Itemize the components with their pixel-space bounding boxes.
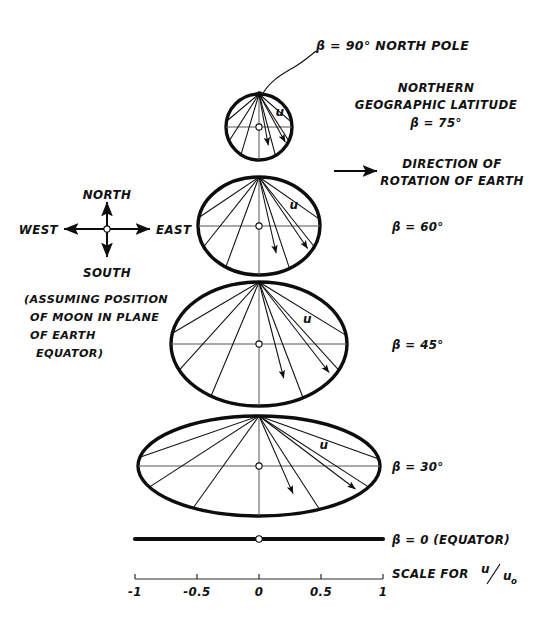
velocity-ray-beta75-2 xyxy=(241,94,259,155)
pole-label: β = 90° NORTH POLE xyxy=(315,38,469,53)
velocity-symbol-beta60: u xyxy=(290,198,299,212)
north-pole-dot xyxy=(256,91,262,97)
scale-tick-label-3: 0.5 xyxy=(310,585,332,599)
latitude-shape-beta75: u xyxy=(226,94,292,160)
velocity-ray-beta75-1 xyxy=(229,94,259,141)
latitude-label-beta75: β = 75° xyxy=(409,116,462,130)
compass-rose xyxy=(64,202,150,257)
latitude-label-beta60: β = 60° xyxy=(391,220,444,234)
equator-label: β = 0 (EQUATOR) xyxy=(391,533,510,547)
latitude-shape-beta60: u xyxy=(198,177,320,275)
latitude-velocity-diagram: uuuu -1-0.500.51 β = 90° NORTH POLE NORT… xyxy=(0,0,553,635)
latitude-label-beta30: β = 30° xyxy=(391,460,444,474)
latitude-label-beta45: β = 45° xyxy=(391,338,444,352)
scale-ratio-numerator: u xyxy=(481,562,490,576)
assumption-line4: EQUATOR) xyxy=(36,347,103,360)
velocity-ray-beta30-1 xyxy=(149,416,259,487)
compass-east-label: EAST xyxy=(156,223,192,237)
compass-west-label: WEST xyxy=(19,223,59,237)
northern-label-line2: GEOGRAPHIC LATITUDE xyxy=(355,98,517,112)
latitude-center-dot-beta75 xyxy=(256,124,262,130)
latitude-ellipse-group: uuuu xyxy=(138,94,380,516)
latitude-center-dot-beta60 xyxy=(256,223,262,229)
velocity-vector-beta60-0 xyxy=(259,177,308,249)
equator-center-dot xyxy=(256,536,262,542)
velocity-symbol-beta75: u xyxy=(276,105,285,119)
latitude-shape-beta45: u xyxy=(171,282,347,406)
scale-label: SCALE FOR xyxy=(392,567,469,581)
scale-tick-label-0: -1 xyxy=(128,585,142,599)
scale-tick-label-4: 1 xyxy=(379,585,388,599)
compass-hub xyxy=(104,226,110,232)
velocity-ray-beta30-3 xyxy=(259,416,320,509)
velocity-ray-beta45-4 xyxy=(259,282,339,370)
scale-axis: -1-0.500.51 xyxy=(128,574,387,599)
assumption-line2: OF MOON IN PLANE xyxy=(30,311,159,324)
velocity-ray-beta30-4 xyxy=(259,416,369,487)
northern-label-line1: NORTHERN xyxy=(398,81,475,95)
compass-north-label: NORTH xyxy=(83,188,131,202)
latitude-shape-beta30: u xyxy=(138,416,380,516)
rotation-label-line1: DIRECTION OF xyxy=(402,157,501,171)
velocity-vector-beta45-0 xyxy=(259,282,329,373)
compass-south-label: SOUTH xyxy=(83,266,131,280)
velocity-ray-beta60-2 xyxy=(226,177,259,267)
latitude-center-dot-beta45 xyxy=(256,341,262,347)
velocity-symbol-beta30: u xyxy=(320,438,329,452)
velocity-ray-beta45-1 xyxy=(179,282,259,370)
velocity-ray-beta60-3 xyxy=(259,177,290,268)
scale-tick-label-1: -0.5 xyxy=(183,585,210,599)
pole-leader-line xyxy=(262,51,316,95)
velocity-ray-beta30-2 xyxy=(193,416,259,508)
scale-ratio-subscript: o xyxy=(511,576,517,586)
rotation-label-line2: ROTATION OF EARTH xyxy=(380,174,523,188)
assumption-line3: OF EARTH xyxy=(30,329,96,342)
assumption-line1: (ASSUMING POSITION xyxy=(24,293,168,306)
velocity-ray-beta60-1 xyxy=(204,177,259,247)
velocity-vector-beta30-0 xyxy=(259,416,355,489)
velocity-symbol-beta45: u xyxy=(303,312,312,326)
scale-tick-label-2: 0 xyxy=(255,585,264,599)
velocity-ray-beta45-3 xyxy=(259,282,303,398)
latitude-label-group: β = 60°β = 45°β = 30° xyxy=(391,220,444,474)
velocity-ray-beta45-2 xyxy=(211,282,259,396)
latitude-center-dot-beta30 xyxy=(256,463,262,469)
